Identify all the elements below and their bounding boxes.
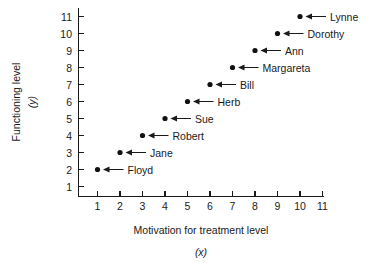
data-point-marker xyxy=(95,167,100,172)
arrow-head-icon xyxy=(148,133,155,139)
y-axis-title: Functioning level xyxy=(10,63,22,142)
point-label: Dorothy xyxy=(308,28,346,40)
y-tick-label-9: 9 xyxy=(66,45,72,57)
y-tick-label-10: 10 xyxy=(60,28,72,40)
data-point-marker xyxy=(252,48,257,53)
y-axis-variable-label: (y) xyxy=(26,96,38,108)
y-tick-label-3: 3 xyxy=(66,147,72,159)
x-tick-label-9: 9 xyxy=(275,200,281,212)
y-tick-label-11: 11 xyxy=(61,11,72,23)
arrow-head-icon xyxy=(193,99,200,105)
point-label: Margareta xyxy=(263,62,311,74)
x-axis-variable-label: (x) xyxy=(195,246,207,258)
x-tick-label-7: 7 xyxy=(230,200,236,212)
point-label: Herb xyxy=(218,96,241,108)
data-point-annotation: Ann xyxy=(252,45,303,57)
y-tick-label-5: 5 xyxy=(66,113,72,125)
arrow-head-icon xyxy=(306,14,313,20)
point-label: Floyd xyxy=(128,164,154,176)
x-tick-label-11: 11 xyxy=(317,200,328,212)
y-tick-label-1: 1 xyxy=(66,181,72,193)
y-axis-ticks: 11 10 9 8 7 6 5 4 3 2 1 xyxy=(60,11,84,193)
data-point-annotation: Bill xyxy=(207,79,254,91)
data-point-marker xyxy=(230,65,235,70)
data-point-marker xyxy=(117,150,122,155)
x-tick-label-8: 8 xyxy=(252,200,258,212)
data-point-annotation: Dorothy xyxy=(275,28,345,40)
point-label: Bill xyxy=(240,79,254,91)
data-point-annotation: Lynne xyxy=(297,11,358,23)
arrow-head-icon xyxy=(171,116,178,122)
y-tick-label-4: 4 xyxy=(66,130,72,142)
point-label: Jane xyxy=(150,147,173,159)
data-point-marker xyxy=(275,31,280,36)
point-label: Ann xyxy=(285,45,304,57)
data-point-annotation: Margareta xyxy=(230,62,311,74)
data-point-annotation: Herb xyxy=(185,96,241,108)
x-tick-label-4: 4 xyxy=(162,200,168,212)
data-point-marker xyxy=(162,116,167,121)
y-tick-label-2: 2 xyxy=(66,164,72,176)
data-point-annotation: Sue xyxy=(162,113,213,125)
arrow-head-icon xyxy=(238,65,245,71)
point-label: Lynne xyxy=(330,11,358,23)
data-point-annotation: Robert xyxy=(140,130,204,142)
arrow-head-icon xyxy=(103,167,110,173)
scatter-plot-figure: 11 10 9 8 7 6 5 4 3 2 1 1 2 xyxy=(0,0,377,264)
plot-canvas: 11 10 9 8 7 6 5 4 3 2 1 1 2 xyxy=(0,0,377,264)
y-tick-label-8: 8 xyxy=(66,62,72,74)
x-tick-label-3: 3 xyxy=(140,200,146,212)
x-tick-label-6: 6 xyxy=(207,200,213,212)
x-tick-label-5: 5 xyxy=(185,200,191,212)
y-tick-label-6: 6 xyxy=(66,96,72,108)
point-label: Robert xyxy=(173,130,205,142)
x-tick-label-1: 1 xyxy=(95,200,101,212)
data-point-marker xyxy=(297,14,302,19)
x-axis-ticks: 1 2 3 4 5 6 7 8 9 10 11 xyxy=(95,191,329,212)
arrow-head-icon xyxy=(283,31,290,37)
arrow-head-icon xyxy=(261,48,268,54)
x-tick-label-10: 10 xyxy=(294,200,306,212)
data-point-marker xyxy=(207,82,212,87)
data-points-group: Lynne Dorothy Ann Margareta xyxy=(95,11,358,176)
axes-group xyxy=(79,8,325,197)
y-tick-label-7: 7 xyxy=(66,79,72,91)
x-axis-title: Motivation for treatment level xyxy=(134,224,269,236)
data-point-marker xyxy=(185,99,190,104)
arrow-head-icon xyxy=(126,150,133,156)
arrow-head-icon xyxy=(216,82,223,88)
data-point-annotation: Jane xyxy=(117,147,173,159)
x-tick-label-2: 2 xyxy=(117,200,123,212)
data-point-annotation: Floyd xyxy=(95,164,153,176)
point-label: Sue xyxy=(195,113,214,125)
data-point-marker xyxy=(140,133,145,138)
